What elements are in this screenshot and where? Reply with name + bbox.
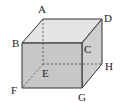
vertex-label-E: E [42,67,49,79]
front-face [22,43,82,88]
vertex-label-B: B [12,37,19,49]
vertex-label-F: F [11,84,17,96]
vertex-label-C: C [84,43,91,55]
cube-diagram: A B C D E F G H [0,0,120,103]
vertex-label-G: G [78,91,86,103]
vertex-label-A: A [38,3,46,15]
vertex-label-D: D [104,12,112,24]
vertex-label-H: H [105,60,113,72]
